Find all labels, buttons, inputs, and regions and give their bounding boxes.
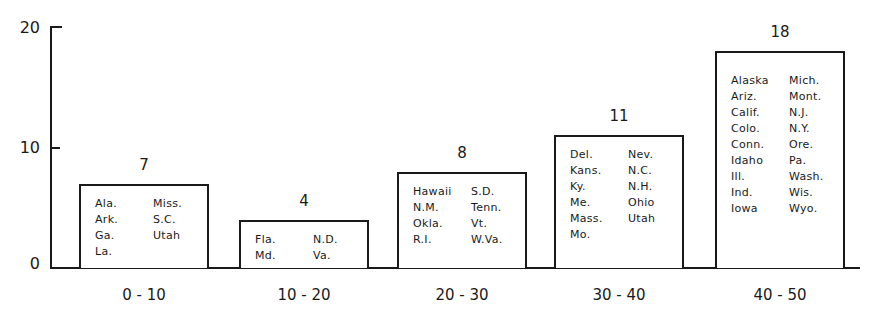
bar: 11Del.Nev.Kans.N.C.Ky.N.H.Me.OhioMass.Ut… [554, 135, 684, 268]
state-abbrev: Ky. [570, 179, 628, 194]
state-abbrev: Va. [313, 248, 338, 263]
state-abbrev: Ill. [731, 169, 789, 184]
state-abbrev: Wyo. [789, 201, 824, 216]
state-abbrev: Ga. [95, 228, 153, 243]
state-abbrev: Fla. [255, 232, 313, 247]
state-abbrev: N.M. [413, 200, 471, 215]
state-abbrev: Calif. [731, 105, 789, 120]
x-category-label: 40 - 50 [715, 286, 845, 304]
state-abbrev: Del. [570, 147, 628, 162]
bar: 8HawaiiS.D.N.M.Tenn.Okla.Vt.R.I.W.Va. [397, 172, 527, 268]
bar: 4Fla.N.D.Md.Va. [239, 220, 369, 268]
state-abbrev: R.I. [413, 232, 471, 247]
state-abbrev: Iowa [731, 201, 789, 216]
bar: 18AlaskaMich.Ariz.Mont.Calif.N.J.Colo.N.… [715, 51, 845, 268]
state-abbrev: La. [95, 244, 153, 259]
state-abbrev: S.D. [471, 184, 503, 199]
state-abbrev: S.C. [153, 212, 182, 227]
y-label-10: 10 [4, 140, 40, 156]
state-abbrev: N.Y. [789, 121, 824, 136]
x-category-label: 30 - 40 [554, 286, 684, 304]
state-abbrev: Conn. [731, 137, 789, 152]
state-abbrev: Mont. [789, 89, 824, 104]
state-abbrev: Vt. [471, 216, 503, 231]
state-abbrev: Mich. [789, 73, 824, 88]
state-abbrev: N.C. [628, 163, 655, 178]
y-label-20: 20 [4, 20, 40, 36]
state-abbrev: Okla. [413, 216, 471, 231]
state-abbrev: N.D. [313, 232, 338, 247]
state-abbrev: Me. [570, 195, 628, 210]
state-abbrev: N.H. [628, 179, 655, 194]
state-abbrev: Ore. [789, 137, 824, 152]
bar: 7Ala.Miss.Ark.S.C.Ga.UtahLa. [79, 184, 209, 268]
state-abbrev: Miss. [153, 196, 182, 211]
state-list: HawaiiS.D.N.M.Tenn.Okla.Vt.R.I.W.Va. [413, 184, 503, 247]
state-abbrev: Utah [153, 228, 182, 243]
state-abbrev: Alaska [731, 73, 789, 88]
state-abbrev: Idaho [731, 153, 789, 168]
state-list: Fla.N.D.Md.Va. [255, 232, 338, 263]
state-abbrev: Ind. [731, 185, 789, 200]
x-category-label: 0 - 10 [79, 286, 209, 304]
state-abbrev: Nev. [628, 147, 655, 162]
bar-value-label: 8 [399, 144, 525, 162]
bar-value-label: 4 [241, 192, 367, 210]
state-abbrev: Mass. [570, 211, 628, 226]
state-abbrev [628, 227, 655, 242]
state-list: AlaskaMich.Ariz.Mont.Calif.N.J.Colo.N.Y.… [731, 73, 824, 216]
state-abbrev: Ariz. [731, 89, 789, 104]
bar-value-label: 7 [81, 156, 207, 174]
state-abbrev: N.J. [789, 105, 824, 120]
state-abbrev: Wash. [789, 169, 824, 184]
state-abbrev: Ala. [95, 196, 153, 211]
x-category-label: 20 - 30 [397, 286, 527, 304]
y-label-0: 0 [4, 256, 40, 272]
state-abbrev: W.Va. [471, 232, 503, 247]
state-list: Ala.Miss.Ark.S.C.Ga.UtahLa. [95, 196, 182, 259]
state-abbrev: Md. [255, 248, 313, 263]
state-list: Del.Nev.Kans.N.C.Ky.N.H.Me.OhioMass.Utah… [570, 147, 655, 242]
state-abbrev: Pa. [789, 153, 824, 168]
state-abbrev [153, 244, 182, 259]
state-abbrev: Ohio [628, 195, 655, 210]
state-abbrev: Hawaii [413, 184, 471, 199]
x-category-label: 10 - 20 [239, 286, 369, 304]
state-abbrev: Wis. [789, 185, 824, 200]
y-tick-20 [50, 26, 62, 28]
state-abbrev: Colo. [731, 121, 789, 136]
bar-value-label: 18 [717, 23, 843, 41]
state-abbrev: Ark. [95, 212, 153, 227]
bar-value-label: 11 [556, 107, 682, 125]
state-abbrev: Mo. [570, 227, 628, 242]
y-tick-10 [50, 147, 60, 149]
state-abbrev: Tenn. [471, 200, 503, 215]
state-abbrev: Kans. [570, 163, 628, 178]
state-abbrev: Utah [628, 211, 655, 226]
